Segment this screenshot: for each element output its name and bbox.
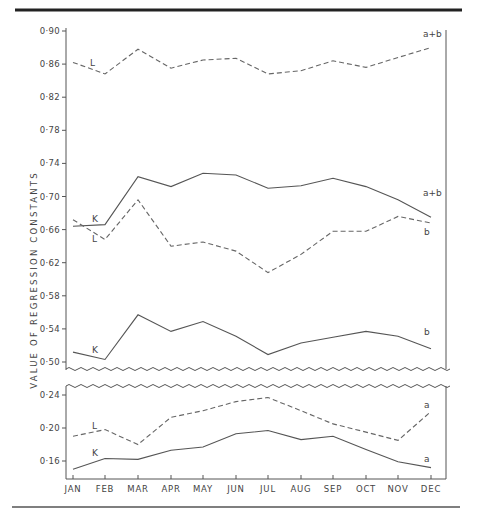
- x-tick-label-jan: JAN: [64, 484, 82, 494]
- y-tick-label: 0·20: [40, 423, 60, 433]
- label-b-mid: b: [424, 227, 430, 237]
- series-l-b: [73, 200, 431, 273]
- y-tick-label: 0·16: [40, 456, 60, 466]
- y-tick-label: 0·70: [40, 192, 60, 202]
- x-tick-label-may: MAY: [193, 484, 213, 494]
- y-tick-label: 0·86: [40, 59, 60, 69]
- x-tick-label-sep: SEP: [324, 484, 342, 494]
- label-k-mid: K: [92, 214, 99, 224]
- regression-constants-chart: VALUE OF REGRESSION CONSTANTS 0·900·860·…: [0, 0, 477, 516]
- x-tick-label-nov: NOV: [387, 484, 408, 494]
- y-tick-label: 0·90: [40, 26, 60, 36]
- label-a-plus-b-top: a+b: [423, 29, 442, 39]
- series-k-b: [73, 315, 431, 360]
- y-axis-title: VALUE OF REGRESSION CONSTANTS: [29, 171, 39, 389]
- label-l-mid: L: [92, 234, 97, 244]
- x-tick-label-jul: JUL: [259, 484, 276, 494]
- series-labels: La+bKLa+bbKbLKaa: [90, 29, 442, 464]
- y-tick-label: 0·74: [40, 158, 60, 168]
- y-tick-label: 0·66: [40, 225, 60, 235]
- y-tick-label: 0·50: [40, 357, 60, 367]
- upper-panel: 0·900·860·820·780·740·700·660·620·580·54…: [40, 26, 450, 371]
- label-l-top: L: [90, 58, 95, 68]
- label-k-bottom: K: [92, 448, 99, 458]
- lower-break-line: [66, 385, 450, 388]
- x-tick-label-jun: JUN: [226, 484, 245, 494]
- y-tick-label: 0·54: [40, 324, 60, 334]
- y-tick-label: 0·78: [40, 125, 60, 135]
- x-tick-label-aug: AUG: [290, 484, 311, 494]
- series-l-a: [73, 398, 431, 445]
- upper-break-line: [66, 368, 450, 371]
- label-l-bottom: L: [92, 421, 97, 431]
- series-l-aplusb: [73, 48, 431, 74]
- x-tick-label-feb: FEB: [96, 484, 115, 494]
- x-tick-label-dec: DEC: [421, 484, 441, 494]
- y-tick-label: 0·24: [40, 390, 60, 400]
- y-tick-label: 0·62: [40, 258, 60, 268]
- series-k-a: [73, 431, 431, 470]
- y-tick-label: 0·82: [40, 92, 60, 102]
- series-k-aplusb: [73, 173, 431, 226]
- label-a-plus-b-mid: a+b: [423, 188, 442, 198]
- label-a-dashed: a: [424, 400, 430, 410]
- label-k-low: K: [92, 345, 99, 355]
- x-axis: JANFEBMARAPRMAYJUNJULAUGSEPOCTNOVDEC: [64, 475, 442, 494]
- label-a-solid: a: [424, 454, 430, 464]
- x-tick-label-oct: OCT: [356, 484, 376, 494]
- lower-panel: 0·240·200·16: [40, 385, 450, 480]
- x-tick-label-mar: MAR: [127, 484, 148, 494]
- x-tick-label-apr: APR: [161, 484, 180, 494]
- y-tick-label: 0·58: [40, 291, 60, 301]
- label-b-low: b: [424, 327, 430, 337]
